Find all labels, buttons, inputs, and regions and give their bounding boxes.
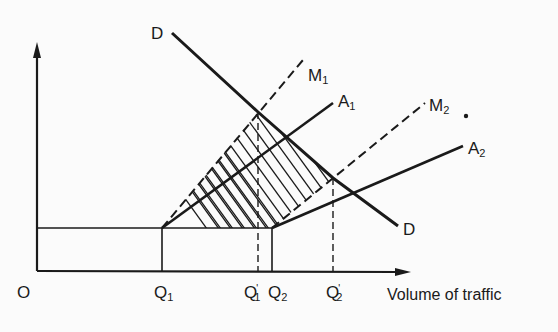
x-axis bbox=[37, 271, 400, 272]
tick-q2-prime: Q'2 bbox=[326, 284, 342, 303]
label-m2: M2 bbox=[429, 97, 449, 116]
x-axis-label: Volume of traffic bbox=[387, 287, 501, 303]
tick-q1-prime: Q'1 bbox=[244, 284, 260, 303]
average-cost-curve-1 bbox=[162, 103, 333, 228]
hatched-welfare-area bbox=[100, 62, 407, 240]
x-axis-arrow-icon bbox=[395, 268, 411, 276]
label-m1: M1 bbox=[308, 67, 328, 86]
label-a2: A2 bbox=[468, 140, 485, 159]
label-origin: O bbox=[17, 284, 30, 301]
marginal-cost-curve-1 bbox=[162, 60, 303, 228]
tick-q1: Q1 bbox=[154, 284, 173, 303]
label-a1: A1 bbox=[338, 93, 355, 112]
stray-mark bbox=[464, 114, 468, 118]
average-cost-curve-2 bbox=[272, 146, 463, 228]
traffic-congestion-diagram: D D M1 A1 M2 A2 O Q1 Q'1 Q2 Q'2 Volume o… bbox=[0, 0, 558, 332]
label-demand-bottom: D bbox=[403, 221, 415, 238]
label-demand-top: D bbox=[151, 25, 163, 42]
y-axis-arrow-icon bbox=[33, 42, 41, 58]
marginal-cost-curve-2 bbox=[272, 103, 425, 228]
tick-q2: Q2 bbox=[268, 284, 287, 303]
